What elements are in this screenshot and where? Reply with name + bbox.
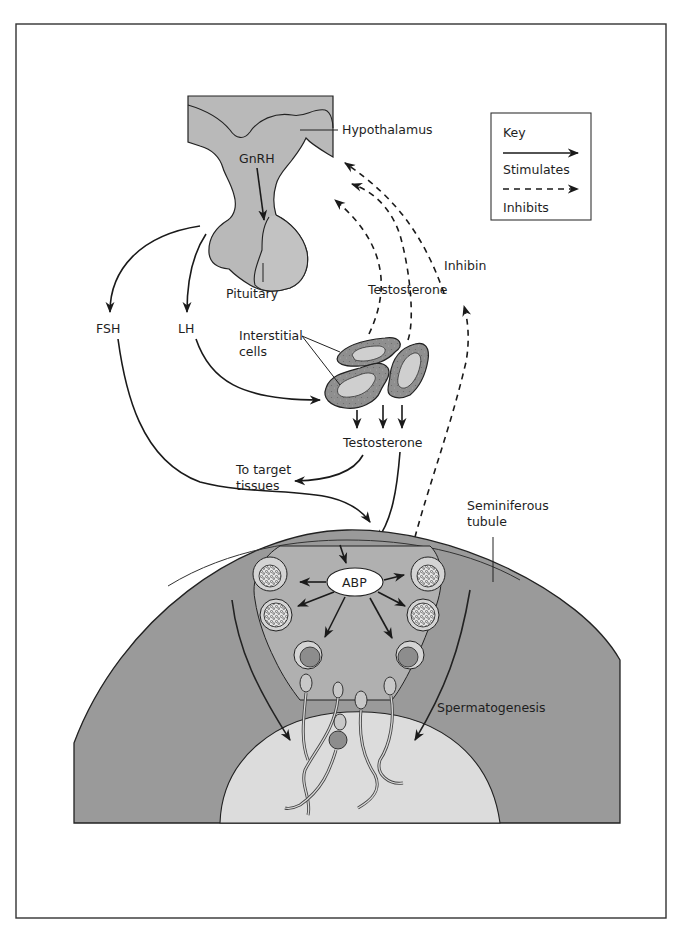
interstitial-cells — [302, 336, 428, 408]
label-interstitial-cells-1: Interstitial — [239, 328, 303, 343]
sperm-head — [333, 682, 343, 698]
residual-body — [329, 731, 347, 749]
sperm-head — [334, 714, 346, 730]
label-gnrh: GnRH — [239, 151, 275, 166]
label-testosterone-lower: Testosterone — [342, 435, 423, 450]
spermatocyte-nucleus — [411, 603, 435, 627]
fsh-arrow-to-tubule — [118, 339, 370, 522]
inhibin-inhibits-hypothalamus-arrow — [345, 163, 444, 293]
hypothalamus-pituitary-gland — [188, 96, 338, 291]
interstitial-pointer-line — [302, 336, 340, 385]
label-seminiferous-tubule-2: tubule — [467, 514, 507, 529]
testosterone-inhibits-hypothalamus-arrow — [335, 200, 381, 334]
testosterone-to-target-tissues-arrow — [295, 455, 363, 481]
label-to-target-tissues-2: tissues — [236, 478, 280, 493]
testosterone-inhibits-pituitary-arrow — [352, 184, 411, 340]
label-testosterone-upper: Testosterone — [367, 282, 448, 297]
label-spermatogenesis: Spermatogenesis — [437, 700, 546, 715]
label-to-target-tissues-1: To target — [235, 462, 291, 477]
spermatogonium-nucleus — [259, 565, 281, 587]
label-hypothalamus: Hypothalamus — [342, 122, 433, 137]
sperm-head — [355, 691, 367, 709]
legend-stimulates-label: Stimulates — [503, 162, 570, 177]
fsh-arrow-to-fsh-label — [110, 226, 200, 312]
spermatocyte-nucleus — [264, 603, 288, 627]
label-abp: ABP — [342, 575, 367, 590]
hormone-regulation-diagram: Key Stimulates Inhibits Hypothalamus GnR… — [0, 0, 682, 928]
spermatid-inner — [300, 647, 320, 667]
legend-key: Key Stimulates Inhibits — [491, 113, 591, 220]
label-interstitial-cells-2: cells — [239, 344, 267, 359]
seminiferous-tubule — [74, 530, 620, 823]
legend-inhibits-label: Inhibits — [503, 200, 549, 215]
spermatid-inner — [398, 647, 418, 667]
inhibin-from-tubule-arrow — [412, 306, 468, 548]
sperm-head — [300, 674, 312, 692]
lh-arrow-to-lh-label — [187, 234, 206, 312]
label-inhibin: Inhibin — [444, 258, 486, 273]
testosterone-to-tubule-arrow — [377, 452, 400, 540]
spermatogonium-nucleus — [417, 565, 439, 587]
label-lh: LH — [178, 321, 194, 336]
sperm-head — [384, 677, 396, 695]
label-seminiferous-tubule-1: Seminiferous — [467, 498, 549, 513]
legend-title: Key — [503, 125, 526, 140]
label-fsh: FSH — [96, 321, 120, 336]
label-pituitary: Pituitary — [226, 286, 279, 301]
